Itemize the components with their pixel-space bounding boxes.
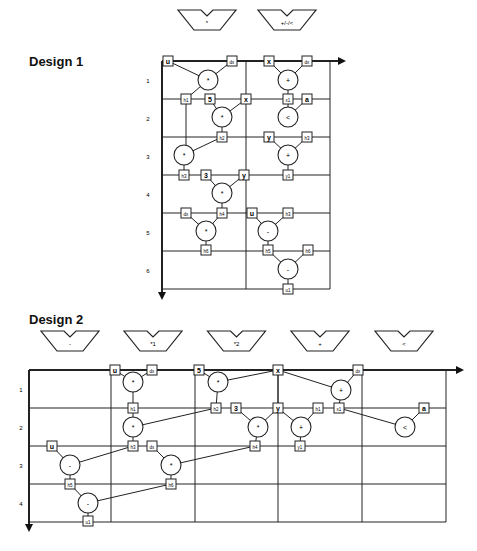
variable-label: h3 (304, 136, 310, 141)
variable-label: h1 (130, 407, 136, 412)
edge (171, 446, 255, 465)
step-label: 5 (146, 230, 150, 236)
variable-label: 3 (234, 405, 238, 412)
step-label: 2 (19, 425, 23, 431)
edge (88, 484, 171, 503)
variable-label: x1 (337, 407, 342, 412)
unit-alu-label: +/-/< (281, 20, 294, 26)
variable-label: h1 (315, 407, 321, 412)
operation-label: * (221, 190, 224, 197)
variable-label: h4 (219, 212, 225, 217)
variable-label: x1 (286, 98, 291, 103)
variable-label: dx (150, 445, 156, 450)
operation-label: + (286, 77, 290, 84)
step-arrow-head (25, 524, 33, 532)
unit-1-label: *1 (150, 341, 156, 347)
variable-label: y (242, 172, 246, 180)
operation-label: * (132, 379, 135, 386)
variable-label: u1 (85, 520, 91, 525)
step-label: 1 (19, 387, 23, 393)
operation-label: * (207, 77, 210, 84)
step-label: 6 (146, 268, 150, 274)
variable-label: dx (356, 369, 362, 374)
variable-label: u (113, 367, 117, 374)
variable-label: a (305, 96, 309, 103)
variable-label: 5 (197, 367, 201, 374)
variable-label: 5 (208, 96, 212, 103)
variable-label: u (250, 210, 254, 217)
variable-label: u1 (285, 288, 291, 293)
operation-label: * (221, 114, 224, 121)
variable-label: h3 (130, 445, 136, 450)
variable-label: y1 (298, 445, 303, 450)
variable-label: h3 (285, 212, 291, 217)
variable-label: dx (150, 369, 156, 374)
operation-label: + (299, 424, 303, 431)
variable-label: a (422, 405, 426, 412)
operation-label: + (339, 387, 343, 394)
operation-label: * (132, 424, 135, 431)
variable-label: u (50, 443, 54, 450)
step-label: 4 (146, 192, 150, 198)
unit-4-label: < (402, 341, 406, 347)
step-label: 3 (19, 463, 23, 469)
operation-label: * (257, 424, 260, 431)
variable-label: h6 (168, 483, 174, 488)
variable-label: h3 (181, 174, 187, 179)
operation-label: * (205, 228, 208, 235)
operation-label: + (286, 152, 290, 159)
step-label: 3 (146, 154, 150, 160)
schedule-diagrams: *+/-/<123456*****+<+--udxh15xh2h33ydxh4h… (0, 0, 477, 551)
variable-label: x (267, 58, 271, 65)
step-label: 2 (146, 116, 150, 122)
variable-label: h1 (183, 98, 189, 103)
operation-label: * (183, 152, 186, 159)
operation-label: < (286, 114, 290, 121)
operation-label: < (403, 424, 407, 431)
operation-label: * (170, 462, 173, 469)
variable-label: y (267, 134, 271, 142)
variable-label: u (166, 58, 170, 65)
variable-label: x (276, 367, 280, 374)
variable-label: h6 (305, 249, 311, 254)
variable-label: h6 (203, 249, 209, 254)
variable-label: h2 (213, 407, 219, 412)
variable-label: h4 (252, 445, 258, 450)
variable-label: x (244, 96, 248, 103)
step-label: 4 (19, 501, 23, 507)
variable-label: 3 (204, 172, 208, 179)
variable-label: h5 (67, 483, 73, 488)
variable-label: dx (184, 212, 190, 217)
edge (133, 408, 216, 427)
step-arrow-head (158, 292, 166, 300)
variable-label: dx (230, 60, 236, 65)
operation-label: * (217, 379, 220, 386)
step-label: 1 (146, 78, 150, 84)
variable-label: y1 (286, 174, 291, 179)
unit-0-label: - (69, 341, 71, 347)
time-arrow-head (338, 57, 346, 65)
unit-3-label: + (318, 341, 322, 347)
time-arrow-head (456, 366, 464, 374)
variable-label: dx (305, 60, 311, 65)
variable-label: h2 (219, 136, 225, 141)
unit-2-label: *2 (234, 341, 240, 347)
variable-label: y (276, 405, 280, 413)
variable-label: h5 (265, 249, 271, 254)
